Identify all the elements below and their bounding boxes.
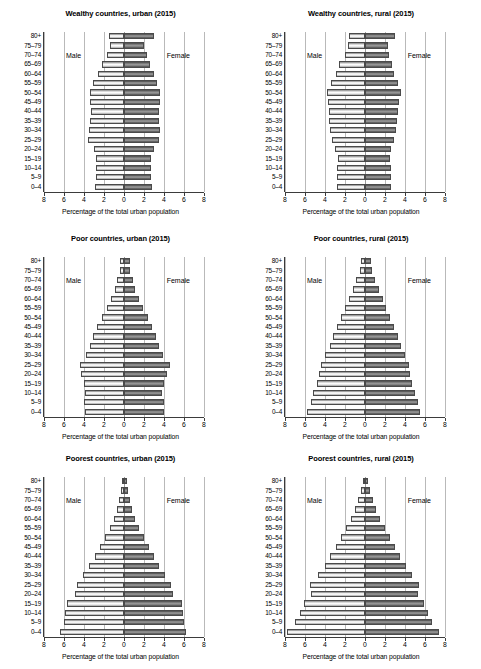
- female-bar: [124, 362, 170, 368]
- pyramid-row: [44, 477, 204, 486]
- y-tick-label: 15–19: [265, 600, 282, 609]
- chart-title: Wealthy countries, urban (2015): [0, 9, 241, 18]
- male-bar: [110, 525, 125, 531]
- female-bar: [365, 506, 376, 512]
- pyramid-row: [44, 342, 204, 351]
- y-tick-label: 65–69: [24, 285, 41, 294]
- pyramid-row: [44, 60, 204, 69]
- male-bar: [337, 174, 366, 180]
- y-tick-label: 75–79: [24, 487, 41, 496]
- pyramid-row: [285, 618, 445, 627]
- female-bar: [124, 390, 162, 396]
- male-bar: [93, 333, 124, 339]
- male-bar: [348, 42, 365, 48]
- male-bar: [330, 127, 365, 133]
- male-bar: [355, 506, 366, 512]
- female-bar: [365, 534, 390, 540]
- pyramid-row: [44, 136, 204, 145]
- y-axis-line: [284, 257, 285, 417]
- female-bar: [124, 544, 149, 550]
- pyramid-row: [44, 145, 204, 154]
- pyramid-row: [44, 313, 204, 322]
- x-tick-label: 6: [298, 641, 312, 648]
- male-bar: [102, 314, 124, 320]
- male-bar: [109, 33, 125, 39]
- male-bar: [117, 506, 125, 512]
- gridline: [445, 32, 446, 192]
- male-bar: [345, 305, 366, 311]
- gridline: [204, 32, 205, 192]
- x-tick-label: 0: [117, 641, 131, 648]
- x-tick-label: 2: [137, 196, 151, 203]
- female-bar: [365, 324, 394, 330]
- x-tick-label: 6: [298, 196, 312, 203]
- pyramid-row: [44, 543, 204, 552]
- y-tick-label: 80+: [272, 32, 282, 41]
- y-tick-label: 45–49: [265, 98, 282, 107]
- pyramid-row: [44, 486, 204, 495]
- x-tick-label: 8: [438, 421, 452, 428]
- female-annotation-label: Female: [408, 52, 431, 59]
- female-bar: [124, 146, 154, 152]
- x-tick-label: 4: [398, 641, 412, 648]
- male-bar: [337, 165, 366, 171]
- y-tick-label: 20–24: [24, 370, 41, 379]
- female-bar: [124, 600, 182, 606]
- pyramid-row: [44, 370, 204, 379]
- pyramid-row: [44, 183, 204, 192]
- pyramid-row: [285, 154, 445, 163]
- pyramid-row: [285, 266, 445, 275]
- y-tick-label: 40–44: [265, 552, 282, 561]
- y-tick-label: 15–19: [24, 155, 41, 164]
- female-bar: [124, 155, 151, 161]
- pyramid-row: [44, 618, 204, 627]
- pyramid-row: [285, 136, 445, 145]
- male-annotation-label: Male: [307, 52, 322, 59]
- female-bar: [365, 610, 428, 616]
- male-bar: [100, 544, 125, 550]
- pyramid-row: [285, 285, 445, 294]
- plot-area: MaleFemale: [285, 477, 445, 637]
- female-bar: [365, 108, 398, 114]
- male-bar: [85, 390, 124, 396]
- y-tick-label: 55–59: [24, 524, 41, 533]
- pyramid-row: [44, 70, 204, 79]
- y-axis-tick-labels: 80+75–7970–7465–6960–6455–5950–5445–4940…: [241, 257, 285, 417]
- female-bar: [365, 362, 409, 368]
- pyramid-row: [44, 515, 204, 524]
- y-tick-label: 30–34: [24, 351, 41, 360]
- plot-area: MaleFemale: [44, 257, 204, 417]
- female-bar: [124, 610, 183, 616]
- y-tick-label: 35–39: [24, 117, 41, 126]
- male-bar: [88, 137, 124, 143]
- female-bar: [365, 277, 375, 283]
- x-tick-label: 6: [418, 641, 432, 648]
- female-bar: [124, 314, 148, 320]
- pyramid-row: [44, 257, 204, 266]
- female-bar: [124, 478, 127, 484]
- male-bar: [64, 619, 125, 625]
- y-tick-label: 70–74: [24, 51, 41, 60]
- x-tick-label: 2: [378, 641, 392, 648]
- male-bar: [337, 184, 365, 190]
- y-axis-tick-labels: 80+75–7970–7465–6960–6455–5950–5445–4940…: [0, 477, 44, 637]
- y-tick-label: 15–19: [24, 600, 41, 609]
- female-bar: [365, 33, 395, 39]
- female-bar: [124, 118, 159, 124]
- y-tick-label: 55–59: [24, 304, 41, 313]
- male-bar: [107, 305, 124, 311]
- y-tick-label: 20–24: [265, 370, 282, 379]
- y-tick-label: 20–24: [24, 145, 41, 154]
- male-bar: [330, 343, 366, 349]
- female-bar: [365, 165, 391, 171]
- y-tick-label: 0–4: [272, 628, 282, 637]
- female-bar: [365, 305, 386, 311]
- male-bar: [95, 553, 125, 559]
- y-tick-label: 50–54: [265, 314, 282, 323]
- female-bar: [365, 371, 410, 377]
- x-tick-label: 6: [177, 641, 191, 648]
- female-bar: [124, 343, 159, 349]
- pyramid-row: [285, 571, 445, 580]
- female-bar: [365, 487, 370, 493]
- x-tick-label: 6: [57, 196, 71, 203]
